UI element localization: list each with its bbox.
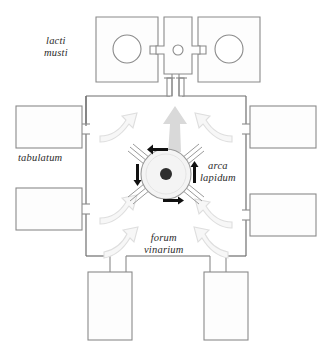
flow-arrow-e — [195, 199, 232, 228]
flow-arrow-se — [194, 227, 228, 258]
cella-south-east — [204, 256, 248, 340]
north-gateway — [164, 74, 187, 96]
arca-lapidum-press — [128, 144, 204, 205]
label-forum-vinarium: forum vinarium — [144, 232, 184, 255]
lacus-west-room — [96, 17, 158, 82]
label-arca-lapidum-line2: lapidum — [200, 172, 236, 184]
rotation-arrow-left — [134, 164, 142, 186]
lacus-central-basin — [173, 45, 183, 55]
flow-arrow-sw — [104, 227, 138, 258]
label-arca-lapidum: arca lapidum — [200, 160, 236, 183]
lacus-east-basin — [215, 35, 243, 63]
lacus-block-north — [96, 17, 260, 82]
label-lacti-musti-line1: lacti — [44, 35, 68, 47]
label-arca-lapidum-line1: arca — [200, 160, 236, 172]
flow-arrow-ne — [195, 113, 232, 142]
press-hub — [160, 168, 172, 180]
label-forum-vinarium-line1: forum — [144, 232, 184, 244]
lacus-east-room — [198, 17, 260, 82]
lacus-central-room — [156, 17, 200, 74]
tabulatum-east-lower — [242, 194, 316, 236]
label-forum-vinarium-line2: vinarium — [144, 244, 184, 256]
label-lacti-musti-line2: musti — [44, 47, 68, 59]
tabulatum-east-upper — [242, 106, 316, 148]
must-outflow-arrow — [163, 106, 187, 154]
tabulatum-west-lower — [16, 188, 90, 230]
label-lacti-musti: lacti musti — [44, 35, 68, 58]
lacus-west-basin — [113, 35, 141, 63]
architectural-plan-figure: .wall { fill: #fdfdfd; stroke: #8a8a8a; … — [0, 0, 331, 357]
tabulatum-west-upper — [16, 106, 90, 148]
flow-arrow-nw — [100, 113, 137, 142]
cella-south-west — [88, 256, 132, 340]
rotation-arrow-right — [191, 161, 199, 183]
label-tabulatum: tabulatum — [18, 152, 62, 164]
